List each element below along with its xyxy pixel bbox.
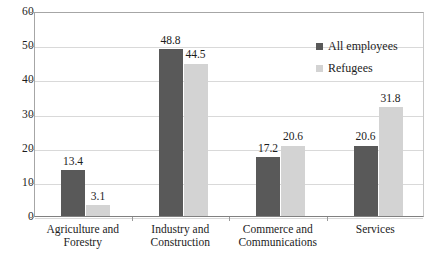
legend-item-all-employees[interactable]: All employees — [316, 35, 398, 57]
bar[interactable] — [159, 49, 183, 216]
x-axis-category-label-line: Communications — [223, 236, 333, 249]
x-axis-tick-mark — [229, 217, 230, 221]
bar[interactable] — [354, 146, 378, 216]
bar-value-label: 44.5 — [176, 49, 216, 61]
bar-value-label: 13.4 — [53, 156, 93, 168]
grouped-bar-chart: 0102030405060 13.43.148.844.517.220.620.… — [0, 0, 435, 260]
x-axis-category-label-line: Services — [320, 223, 430, 236]
bar-group: 13.43.1 — [35, 13, 133, 216]
x-axis-category-label: Commerce andCommunications — [223, 223, 333, 249]
bar-value-label: 3.1 — [78, 191, 118, 203]
x-axis-category-label-line: Agriculture and — [28, 223, 138, 236]
bar[interactable] — [86, 205, 110, 216]
x-axis-category-label-line: Industry and — [125, 223, 235, 236]
x-axis-category-label: Agriculture andForestry — [28, 223, 138, 249]
x-axis-category-label-line: Forestry — [28, 236, 138, 249]
bar[interactable] — [281, 146, 305, 216]
legend-swatch-refugees-icon — [316, 65, 323, 72]
legend-label-refugees: Refugees — [328, 62, 373, 74]
bar-value-label: 20.6 — [273, 131, 313, 143]
x-axis-category-label-line: Construction — [125, 236, 235, 249]
x-axis-tick-mark — [132, 217, 133, 221]
x-axis-category-label: Services — [320, 223, 430, 236]
bar-value-label: 31.8 — [371, 93, 411, 105]
y-axis: 0102030405060 — [0, 0, 34, 260]
x-axis-category-label-line: Commerce and — [223, 223, 333, 236]
legend-item-refugees[interactable]: Refugees — [316, 57, 398, 79]
legend-swatch-all-employees-icon — [316, 43, 323, 50]
bar[interactable] — [379, 107, 403, 216]
x-axis-category-label: Industry andConstruction — [125, 223, 235, 249]
bar[interactable] — [256, 157, 280, 216]
bar-group: 17.220.6 — [230, 13, 328, 216]
x-axis-tick-mark — [327, 217, 328, 221]
y-axis-tick-mark — [30, 217, 34, 218]
bar-group: 48.844.5 — [133, 13, 231, 216]
bar[interactable] — [184, 64, 208, 216]
legend: All employees Refugees — [316, 35, 398, 79]
plot-area: 13.43.148.844.517.220.620.631.8 All empl… — [34, 12, 424, 217]
legend-label-all-employees: All employees — [328, 40, 398, 52]
bar-value-label: 48.8 — [151, 35, 191, 47]
